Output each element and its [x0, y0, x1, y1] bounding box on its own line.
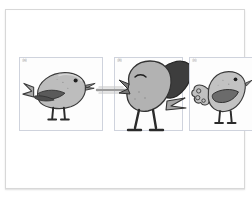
page-edge-shadow: [5, 189, 245, 190]
figure-panel-a[interactable]: (a): [19, 57, 103, 131]
figure-panel-c[interactable]: (c): [189, 57, 252, 131]
bird-illustration-a: [20, 58, 102, 130]
bird-illustration-c: [190, 58, 252, 130]
figure-panel-b[interactable]: (b): [114, 57, 183, 131]
figure-frame: (a): [5, 9, 245, 189]
panel-row: (a): [7, 57, 243, 133]
figure-canvas: (a): [7, 11, 243, 187]
figure-caption: Fig.1. — — —: [0, 191, 252, 202]
